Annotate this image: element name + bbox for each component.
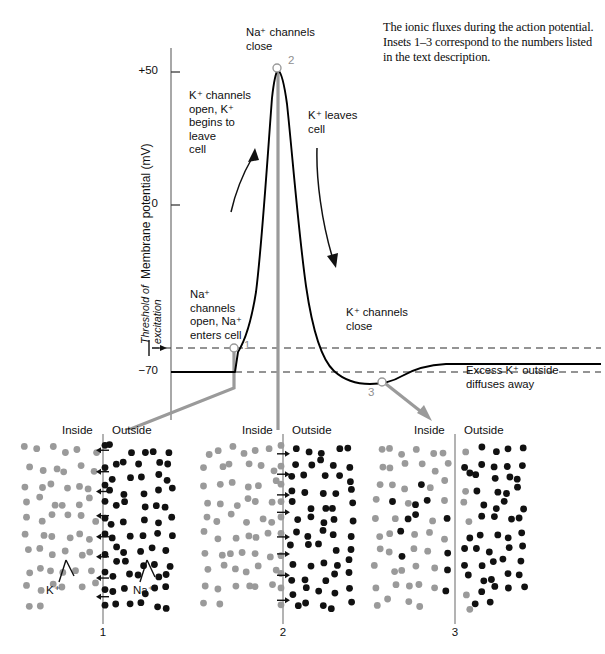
sodium-ion-dot [334, 562, 341, 569]
sodium-ion-dot [305, 541, 312, 548]
sodium-ion-dot [113, 461, 120, 468]
potassium-ion-dot [432, 468, 439, 475]
sodium-ion-dot [322, 472, 329, 479]
sodium-ion-dot [166, 449, 173, 456]
potassium-ion-dot [37, 603, 44, 610]
sodium-ion-dot [142, 504, 149, 511]
potassium-ion-dot [213, 518, 220, 525]
potassium-ion-dot [220, 463, 227, 470]
sodium-ion-dot [461, 464, 468, 471]
potassium-ion-dot [25, 546, 32, 553]
ion-flux-arrow-head [96, 594, 101, 600]
potassium-ion-dot [246, 460, 253, 467]
sodium-ion-dot [289, 488, 296, 495]
potassium-ion-dot [62, 548, 69, 555]
sodium-ion-dot [519, 462, 526, 469]
potassium-ion-dot [419, 460, 426, 467]
potassium-ion-dot [67, 534, 74, 541]
sodium-ion-dot [287, 542, 294, 549]
sodium-ion-dot [320, 602, 327, 609]
sodium-ion-dot [108, 521, 115, 528]
potassium-ion-dot [427, 484, 434, 491]
potassium-ion-dot [374, 602, 381, 609]
sodium-ion-dot [128, 449, 135, 456]
potassium-ion-dot [445, 460, 452, 467]
ion-flux-arrow-head [96, 534, 101, 540]
sodium-ion-dot [466, 470, 473, 477]
potassium-ion-dot [402, 460, 409, 467]
sodium-ion-dot [294, 516, 301, 523]
sodium-ion-dot [516, 515, 523, 522]
potassium-ion-dot [38, 587, 45, 594]
sodium-ion-dot [169, 485, 176, 492]
potassium-ion-dot [86, 549, 93, 556]
sodium-ion-dot [519, 543, 526, 550]
sodium-ion-dot [163, 571, 170, 578]
sodium-ion-dot [162, 504, 169, 511]
sodium-ion-dot [514, 476, 521, 483]
potassium-ion-dot [232, 566, 239, 573]
potassium-ion-dot [23, 514, 30, 521]
sodium-ion-dot [164, 477, 171, 484]
sodium-ion-dot [333, 547, 340, 554]
sodium-ion-dot [348, 599, 355, 606]
potassium-ion-dot [26, 569, 33, 576]
sodium-ion-dot [308, 563, 315, 570]
sodium-ion-dot [304, 533, 311, 540]
sodium-ion-dot [336, 472, 343, 479]
sodium-ion-dot [472, 600, 479, 607]
potassium-ion-dot [200, 464, 207, 471]
sodium-ion-dot [491, 583, 498, 590]
sodium-ion-dot [346, 464, 353, 471]
potassium-ion-dot [204, 514, 211, 521]
potassium-ion-dot [463, 592, 470, 599]
potassium-ion-dot [268, 519, 275, 526]
sodium-ion-dot [478, 513, 485, 520]
potassium-ion-dot [246, 533, 253, 540]
sodium-ion-dot [151, 561, 158, 568]
sodium-ion-dot [155, 471, 162, 478]
potassium-ion-dot [243, 519, 250, 526]
sodium-ion-dot [330, 462, 337, 469]
sodium-ion-dot [290, 561, 297, 568]
inset3-number: 3 [445, 626, 465, 638]
sodium-ion-dot [389, 498, 396, 505]
potassium-ion-dot [405, 500, 412, 507]
potassium-ion-dot [54, 466, 61, 473]
potassium-ion-dot [49, 511, 56, 518]
potassium-ion-dot [426, 529, 433, 536]
potassium-ion-dot [405, 598, 412, 605]
ion-flux-arrow-head [96, 488, 101, 494]
potassium-ion-dot [40, 467, 47, 474]
sodium-ion-dot [121, 585, 128, 592]
sodium-ion-dot [155, 487, 162, 494]
potassium-ion-dot [36, 545, 43, 552]
potassium-ion-dot [440, 450, 447, 457]
sodium-ion-dot [121, 491, 128, 498]
sodium-ion-dot [317, 457, 324, 464]
sodium-ion-dot [113, 502, 120, 509]
sodium-ion-dot [301, 489, 308, 496]
potassium-ion-dot [217, 501, 224, 508]
potassium-ion-dot [389, 481, 396, 488]
sodium-ion-dot [142, 449, 149, 456]
sodium-ion-dot [153, 502, 160, 509]
potassium-ion-dot [26, 603, 33, 610]
sodium-ion-dot [490, 558, 497, 565]
sodium-ion-dot [424, 497, 431, 504]
sodium-ion-dot [315, 588, 322, 595]
potassium-ion-dot [219, 552, 226, 559]
sodium-ion-dot [102, 464, 109, 471]
potassium-ion-dot [234, 502, 241, 509]
ion-dots-layer [21, 441, 528, 612]
sodium-ion-dot [102, 498, 109, 505]
sodium-ion-dot [135, 572, 142, 579]
ion-flux-arrow-head [285, 597, 290, 603]
sodium-ion-dot [444, 550, 451, 557]
potassium-ion-dot [391, 568, 398, 575]
sodium-ion-dot [521, 583, 528, 590]
sodium-ion-dot [288, 577, 295, 584]
potassium-ion-dot [41, 532, 48, 539]
sodium-ion-dot [137, 548, 144, 555]
potassium-ion-dot [39, 518, 46, 525]
